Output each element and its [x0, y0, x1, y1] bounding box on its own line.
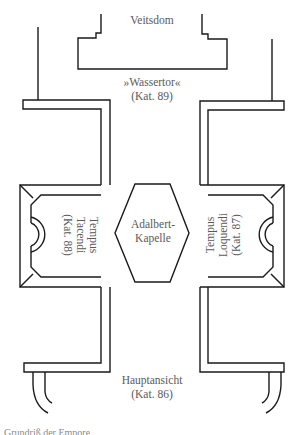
label-tempus-loquendi: Tempus Loquendi (Kat. 87) — [204, 203, 244, 267]
label-tacendi-line3: (Kat. 88) — [61, 203, 74, 267]
label-loquendi-line3: (Kat. 87) — [230, 203, 243, 267]
label-loquendi-line2: Loquendi — [217, 203, 230, 267]
right-lower-wing — [200, 287, 284, 413]
label-wassertor-cat: (Kat. 89) — [110, 90, 194, 103]
figure-caption: Grundriß der Empore — [4, 428, 90, 435]
left-upper-wing — [23, 27, 110, 185]
label-tacendi-line1: Tempus — [87, 203, 100, 267]
left-lower-wing — [24, 287, 110, 413]
label-veitsdom: Veitsdom — [120, 14, 184, 27]
right-upper-wing — [200, 39, 284, 185]
label-loquendi-line1: Tempus — [204, 203, 217, 267]
label-hauptansicht-cat: (Kat. 86) — [110, 388, 194, 401]
label-wassertor: »Wassertor« — [110, 76, 194, 89]
label-hauptansicht: Hauptansicht — [110, 374, 194, 387]
label-tempus-tacendi: Tempus Tacendi (Kat. 88) — [60, 203, 100, 267]
label-chapel-line2: Kapelle — [120, 232, 186, 245]
label-tacendi-line2: Tacendi — [74, 203, 87, 267]
label-chapel-line1: Adalbert- — [120, 218, 186, 231]
